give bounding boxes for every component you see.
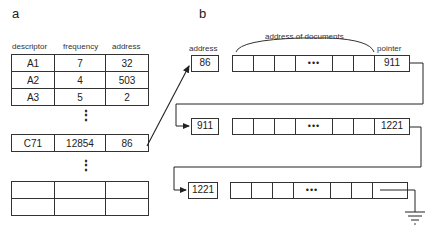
ground-icon bbox=[380, 190, 425, 225]
connector-lines bbox=[0, 0, 436, 239]
